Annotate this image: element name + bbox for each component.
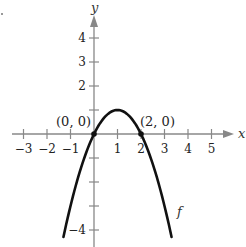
x-tick-label: 2 <box>137 142 145 156</box>
y-tick-label: 3 <box>78 55 86 69</box>
y-tick-label: 2 <box>78 79 86 93</box>
point-origin-label: (0, 0) <box>56 114 91 129</box>
x-tick-label: −3 <box>15 142 33 156</box>
x-axis-arrow-icon <box>223 130 234 138</box>
y-axis-label: y <box>90 0 99 15</box>
point-2-0-dot <box>138 131 144 137</box>
stray-mark <box>1 13 3 15</box>
function-label-f: f <box>176 204 184 219</box>
axes: xy <box>12 0 246 247</box>
point-2-0-label: (2, 0) <box>140 114 175 129</box>
y-axis-arrow-icon <box>90 15 98 27</box>
y-tick-label: −4 <box>68 223 86 237</box>
x-tick-label: −1 <box>62 142 80 156</box>
y-tick-label: 4 <box>78 31 86 45</box>
annotations: (0, 0)(2, 0)f <box>1 13 184 219</box>
function-graph: xy −3−2−112345432−4 (0, 0)(2, 0)f <box>0 0 246 247</box>
x-tick-label: 4 <box>184 142 192 156</box>
x-axis-label: x <box>238 126 246 141</box>
x-tick-label: 1 <box>114 142 122 156</box>
x-tick-label: 5 <box>208 142 216 156</box>
x-tick-label: −2 <box>38 142 56 156</box>
x-tick-label: 3 <box>161 142 169 156</box>
point-origin-dot <box>91 131 97 137</box>
